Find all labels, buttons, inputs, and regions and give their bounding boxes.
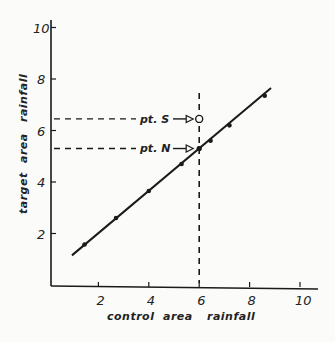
x-axis-title-word-3: rainfall <box>207 310 255 323</box>
data-point <box>262 93 267 98</box>
reference-lines <box>54 93 199 283</box>
y-tick-label: 10 <box>33 21 50 36</box>
data-series <box>72 88 271 255</box>
regression-line <box>72 88 271 255</box>
pt-s-label: pt. S <box>139 113 169 126</box>
x-axis-line <box>51 286 318 289</box>
y-tick-label: 4 <box>37 175 45 190</box>
axis-ticks: 246810246810 <box>33 21 312 309</box>
y-tick-label: 6 <box>37 124 45 139</box>
data-point <box>227 123 232 128</box>
data-point <box>147 189 152 194</box>
y-tick-label: 8 <box>37 72 45 87</box>
annotations: pt. S pt. N <box>139 113 203 155</box>
pt-s-marker <box>196 115 203 122</box>
axes <box>51 20 318 289</box>
y-axis-title-word-2: area <box>17 133 30 163</box>
y-axis-title-word-3: rainfall <box>17 74 30 122</box>
pt-n-marker <box>197 146 202 151</box>
arrow-head-icon <box>186 145 193 152</box>
arrow-head-icon <box>186 115 193 122</box>
data-point <box>114 216 119 221</box>
x-tick-label: 6 <box>197 293 205 308</box>
x-axis-title-word-2: area <box>163 310 193 323</box>
x-axis-title-word-1: control <box>107 310 154 323</box>
x-tick-label: 10 <box>295 293 312 308</box>
pt-n-label: pt. N <box>139 142 170 155</box>
x-tick-label: 4 <box>147 293 155 308</box>
y-axis-title-word-1: target <box>17 172 30 214</box>
x-tick-label: 2 <box>96 293 104 308</box>
data-point <box>82 242 87 247</box>
data-point <box>208 139 213 144</box>
rainfall-regression-chart: 246810246810 pt. S pt. N control area ra… <box>0 0 335 342</box>
x-tick-label: 8 <box>248 293 256 308</box>
data-point <box>179 162 184 167</box>
y-tick-label: 2 <box>37 227 45 242</box>
